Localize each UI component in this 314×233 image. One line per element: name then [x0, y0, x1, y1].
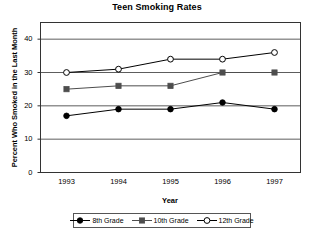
- data-point-marker: [220, 56, 226, 62]
- data-point-marker: [168, 106, 174, 112]
- legend-entry-2: 12th Grade: [197, 216, 254, 225]
- data-point-marker: [116, 66, 122, 72]
- legend-label: 12th Grade: [219, 217, 254, 224]
- data-point-marker: [168, 83, 173, 88]
- plot-area: [0, 0, 314, 233]
- data-point-marker: [116, 106, 122, 112]
- x-tick-label: 1993: [45, 177, 89, 186]
- legend-entry-1: 10th Grade: [132, 216, 189, 225]
- data-point-marker: [168, 56, 174, 62]
- y-tick-label: 30: [7, 68, 33, 77]
- data-point-marker: [220, 70, 225, 75]
- legend-label: 10th Grade: [154, 217, 189, 224]
- legend-marker-filled-square-icon: [132, 216, 152, 225]
- legend-entry-0: 8th Grade: [70, 216, 123, 225]
- y-tick-label: 10: [7, 134, 33, 143]
- data-point-marker: [64, 113, 70, 119]
- data-point-marker: [272, 50, 278, 56]
- y-tick-label: 20: [7, 101, 33, 110]
- chart-figure: Teen Smoking Rates Percent Who Smoked in…: [0, 0, 314, 233]
- data-point-marker: [64, 87, 69, 92]
- data-point-marker: [272, 106, 278, 112]
- x-tick-label: 1995: [149, 177, 193, 186]
- legend-marker-filled-circle-icon: [70, 216, 90, 225]
- legend-label: 8th Grade: [92, 217, 123, 224]
- plot-frame: [41, 23, 301, 173]
- x-tick-label: 1997: [253, 177, 297, 186]
- x-tick-label: 1994: [97, 177, 141, 186]
- x-tick-label: 1996: [201, 177, 245, 186]
- data-point-marker: [220, 100, 226, 106]
- data-point-marker: [116, 83, 121, 88]
- y-tick-label: 40: [7, 34, 33, 43]
- data-point-marker: [64, 70, 70, 76]
- y-tick-label: 0: [7, 168, 33, 177]
- data-point-marker: [272, 70, 277, 75]
- chart-legend: 8th Grade10th Grade12th Grade: [73, 213, 251, 228]
- legend-marker-open-circle-icon: [197, 216, 217, 225]
